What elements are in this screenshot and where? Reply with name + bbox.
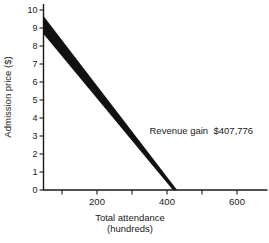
y-tick-label: 3 (32, 131, 37, 141)
x-tick-label: 200 (89, 196, 105, 207)
x-tick-label: 400 (159, 196, 175, 207)
y-tick-label: 7 (32, 59, 37, 69)
y-tick-label: 8 (32, 41, 37, 51)
demand-revenue-chart: 012345678910200400600 Revenue gain $407,… (0, 0, 269, 243)
y-tick-label: 10 (27, 5, 37, 15)
x-tick-label: 600 (229, 196, 245, 207)
y-axis-title: Admission price ($) (2, 56, 13, 137)
y-tick-label: 6 (32, 77, 37, 87)
annotation-revenue-gain-value: $407,776 (214, 125, 254, 136)
x-axis-title-line2: (hundreds) (107, 223, 153, 234)
x-axis-title-line1: Total attendance (95, 212, 165, 223)
y-tick-label: 2 (32, 149, 37, 159)
revenue-gain-wedge (43, 15, 177, 190)
axis-ticks: 012345678910200400600 (27, 5, 244, 206)
y-tick-label: 1 (32, 167, 37, 177)
chart-canvas: 012345678910200400600 Revenue gain $407,… (0, 0, 269, 243)
annotation-revenue-gain-label: Revenue gain (150, 125, 209, 136)
y-tick-label: 9 (32, 23, 37, 33)
y-tick-label: 0 (32, 185, 37, 195)
y-tick-label: 4 (32, 113, 37, 123)
y-tick-label: 5 (32, 95, 37, 105)
